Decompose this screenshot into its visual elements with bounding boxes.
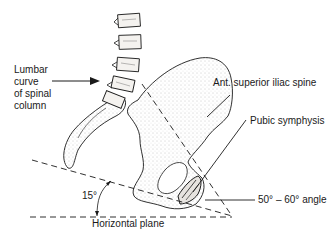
asis-label: Ant. superior iliac spine bbox=[213, 77, 316, 89]
lumbar-label-line2: curve bbox=[14, 76, 51, 88]
lumbar-vertebrae bbox=[102, 13, 141, 108]
lumbar-label-line1: Lumbar bbox=[14, 64, 51, 76]
pelvis-diagram: Lumbar curve of spinal column Ant. super… bbox=[0, 0, 331, 239]
angle-15-label: 15° bbox=[82, 190, 97, 202]
pubic-symphysis-label: Pubic symphysis bbox=[250, 115, 324, 127]
lumbar-label-line4: column bbox=[14, 100, 51, 112]
angle-15-arc bbox=[95, 181, 111, 216]
lumbar-label-line3: of spinal bbox=[14, 88, 51, 100]
angle-50-60-label: 50° – 60° angle bbox=[258, 194, 327, 206]
horizontal-plane-label: Horizontal plane bbox=[92, 218, 164, 230]
lumbar-curve-label: Lumbar curve of spinal column bbox=[14, 64, 51, 112]
lumbar-arrow bbox=[52, 77, 100, 85]
